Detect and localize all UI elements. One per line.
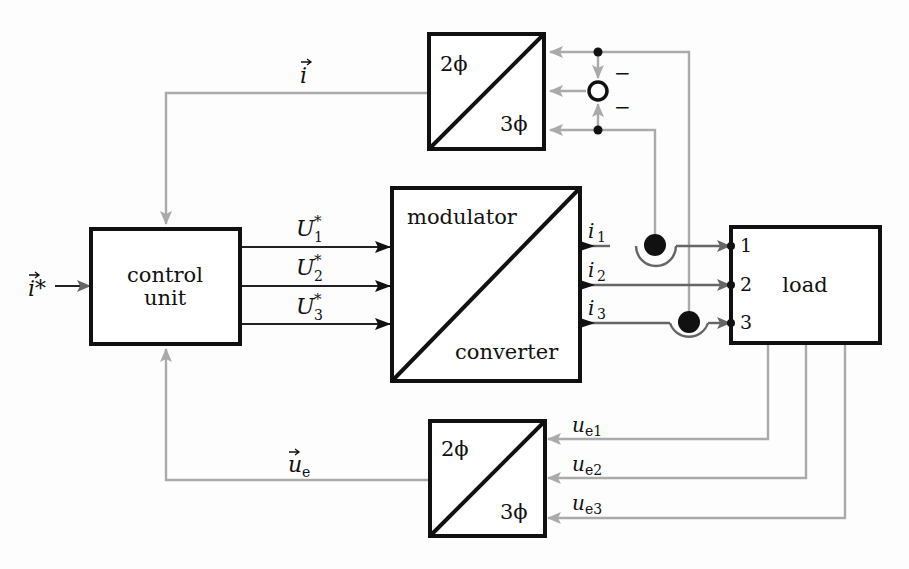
- svg-text:i: i: [588, 219, 594, 243]
- block-diagram: − − control unit modulator converter loa…: [0, 0, 909, 569]
- svg-text:1: 1: [597, 229, 606, 245]
- port-2-label: 2: [740, 273, 752, 295]
- ue-vector-label: u e: [288, 449, 310, 480]
- 3phi-label: 3ϕ: [500, 112, 528, 136]
- svg-text:*: *: [314, 290, 322, 308]
- svg-text:3: 3: [314, 307, 323, 323]
- i-vector-label: i: [300, 59, 311, 88]
- svg-text:e: e: [302, 464, 310, 480]
- i3-measure-line: [598, 52, 689, 323]
- i1-sensor: [644, 234, 666, 256]
- load-label: load: [782, 273, 827, 297]
- port-dot: [727, 319, 735, 327]
- load-block: load 1 2 3: [727, 227, 880, 343]
- port-dot: [727, 242, 735, 250]
- control-unit-block: control unit: [91, 229, 240, 344]
- i1-measure-line: [598, 130, 655, 245]
- U3-label: U 3 *: [296, 290, 323, 323]
- i-ref-label: i*: [28, 272, 46, 301]
- svg-text:*: *: [314, 251, 322, 269]
- svg-text:U: U: [296, 255, 316, 280]
- ue1-label: u e1: [572, 413, 602, 439]
- junction-dot: [594, 126, 603, 135]
- junction-dot: [594, 48, 603, 57]
- 2phi-label: 2ϕ: [441, 437, 469, 461]
- 2phi-label: 2ϕ: [440, 52, 468, 76]
- i1-label: i 1: [588, 219, 606, 245]
- ue3-label: u e3: [572, 491, 602, 517]
- control-unit-label: control: [127, 263, 203, 287]
- port-1-label: 1: [740, 234, 752, 256]
- i3-label: i 3: [588, 296, 606, 322]
- svg-text:e3: e3: [585, 501, 602, 517]
- svg-text:u: u: [288, 452, 302, 477]
- svg-text:2: 2: [597, 268, 606, 284]
- port-3-label: 3: [740, 311, 752, 333]
- modulator-block: modulator converter: [392, 188, 580, 381]
- ue2-label: u e2: [572, 452, 602, 478]
- 3phi-label: 3ϕ: [500, 500, 528, 524]
- svg-text:i: i: [588, 258, 594, 282]
- converter-label: converter: [455, 340, 559, 364]
- svg-text:*: *: [314, 212, 322, 230]
- svg-text:u: u: [572, 491, 585, 515]
- minus-sign: −: [614, 61, 631, 85]
- svg-text:i: i: [588, 296, 594, 320]
- transform-block-bottom: 2ϕ 3ϕ: [430, 421, 545, 536]
- minus-sign: −: [614, 95, 631, 119]
- svg-text:e1: e1: [585, 423, 602, 439]
- svg-text:i: i: [300, 63, 307, 88]
- control-unit-label: unit: [144, 286, 187, 310]
- port-dot: [727, 281, 735, 289]
- svg-text:2: 2: [314, 268, 323, 284]
- i2-label: i 2: [588, 258, 606, 284]
- transform-block-top: 2ϕ 3ϕ: [429, 34, 544, 149]
- svg-text:U: U: [296, 294, 316, 319]
- U1-label: U 1 *: [296, 212, 323, 245]
- svg-text:i*: i*: [28, 276, 46, 301]
- svg-text:u: u: [572, 413, 585, 437]
- svg-text:3: 3: [597, 306, 606, 322]
- svg-text:1: 1: [314, 229, 323, 245]
- svg-text:U: U: [296, 216, 316, 241]
- svg-text:e2: e2: [585, 462, 602, 478]
- svg-text:u: u: [572, 452, 585, 476]
- U2-label: U 2 *: [296, 251, 323, 284]
- summing-junction: [589, 82, 607, 100]
- i3-sensor: [678, 311, 700, 333]
- modulator-label: modulator: [407, 205, 518, 229]
- i-feedback-line: [166, 93, 428, 224]
